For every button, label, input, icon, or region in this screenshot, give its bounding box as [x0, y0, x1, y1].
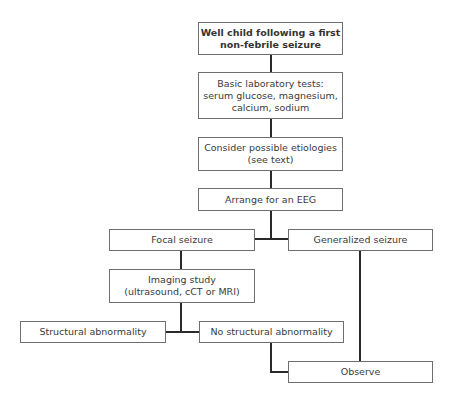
- connector-structural-nostructural: [165, 331, 199, 333]
- connector-imaging-split: [180, 302, 182, 333]
- node-start-line2: non-febrile seizure: [201, 39, 341, 51]
- node-no-structural: No structural abnormality: [199, 321, 344, 343]
- node-eeg: Arrange for an EEG: [198, 188, 343, 211]
- connector-nostructural-down: [270, 342, 272, 373]
- node-start: Well child following a first non-febrile…: [198, 22, 343, 55]
- connector-focal-imaging: [180, 250, 182, 269]
- node-etiologies-line2: (see text): [204, 154, 337, 166]
- connector-nostructural-observe: [270, 371, 288, 373]
- connector-etiologies-eeg: [270, 170, 272, 188]
- node-focal: Focal seizure: [109, 229, 255, 251]
- node-labs: Basic laboratory tests: serum glucose, m…: [198, 72, 343, 119]
- node-structural-label: Structural abnormality: [39, 326, 146, 338]
- node-imaging-line2: (ultrasound, cCT or MRI): [124, 286, 239, 298]
- node-labs-line1: Basic laboratory tests:: [203, 78, 337, 90]
- node-observe: Observe: [288, 361, 433, 383]
- node-imaging-line1: Imaging study: [124, 274, 239, 286]
- node-labs-line3: calcium, sodium: [203, 102, 337, 114]
- connector-generalized-observe: [359, 250, 361, 361]
- node-structural: Structural abnormality: [20, 321, 166, 343]
- connector-focal-generalized: [254, 238, 288, 240]
- node-imaging: Imaging study (ultrasound, cCT or MRI): [109, 269, 255, 303]
- node-observe-label: Observe: [341, 366, 381, 378]
- node-labs-line2: serum glucose, magnesium,: [203, 90, 337, 102]
- node-start-line1: Well child following a first: [201, 27, 341, 39]
- node-generalized: Generalized seizure: [288, 229, 433, 251]
- node-etiologies-line1: Consider possible etiologies: [204, 142, 337, 154]
- connector-start-labs: [270, 54, 272, 72]
- connector-eeg-split: [270, 210, 272, 240]
- node-etiologies: Consider possible etiologies (see text): [198, 137, 343, 171]
- node-no-structural-label: No structural abnormality: [210, 326, 332, 338]
- node-generalized-label: Generalized seizure: [314, 234, 408, 246]
- node-eeg-label: Arrange for an EEG: [225, 194, 316, 206]
- connector-labs-etiologies: [270, 118, 272, 137]
- node-focal-label: Focal seizure: [151, 234, 213, 246]
